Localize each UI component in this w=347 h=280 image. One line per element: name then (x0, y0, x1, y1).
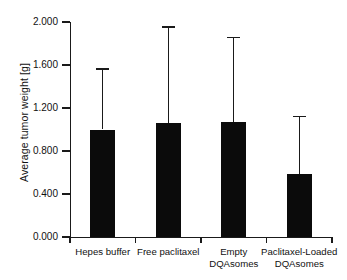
error-bar-cap (96, 68, 109, 69)
error-bar-stem (102, 68, 103, 129)
error-bar-cap (227, 37, 240, 38)
error-bar-cap (162, 26, 175, 27)
x-axis-label-line1: Paclitaxel-Loaded (261, 246, 337, 257)
x-axis-label-line1: Empty (220, 246, 247, 257)
y-axis-tick (62, 107, 70, 108)
x-axis-tick (135, 237, 136, 243)
x-axis-tick (266, 237, 267, 243)
y-axis-tick-label: 1.600 (8, 60, 58, 70)
x-axis-tick (331, 237, 332, 243)
y-axis-tick-label: 2.000 (8, 17, 58, 27)
x-axis-label-line2: DQAsomes (259, 258, 341, 270)
bar (221, 122, 246, 237)
error-bar-stem (233, 37, 234, 122)
x-axis-tick (200, 237, 201, 243)
y-axis-tick-label: 0.000 (8, 232, 58, 242)
x-axis-label-line1: Hepes buffer (75, 246, 130, 257)
y-axis-line (70, 22, 71, 238)
x-axis-tick (69, 237, 70, 243)
x-axis-label-line1: Free paclitaxel (137, 246, 199, 257)
bar (156, 123, 181, 237)
y-axis-tick-label: 1.200 (8, 103, 58, 113)
error-bar-stem (299, 116, 300, 174)
y-axis-tick (62, 150, 70, 151)
bar (287, 174, 312, 237)
bar (90, 130, 115, 238)
error-bar-stem (168, 26, 169, 123)
error-bar-cap (293, 116, 306, 117)
y-axis-tick (62, 64, 70, 65)
bar-chart: Average tumor weight [g] 0.0000.4000.800… (0, 0, 347, 280)
x-axis-label: Paclitaxel-LoadedDQAsomes (259, 246, 341, 269)
y-axis-tick-label: 0.400 (8, 189, 58, 199)
y-axis-tick (62, 21, 70, 22)
y-axis-tick (62, 193, 70, 194)
y-axis-tick-label: 0.800 (8, 146, 58, 156)
